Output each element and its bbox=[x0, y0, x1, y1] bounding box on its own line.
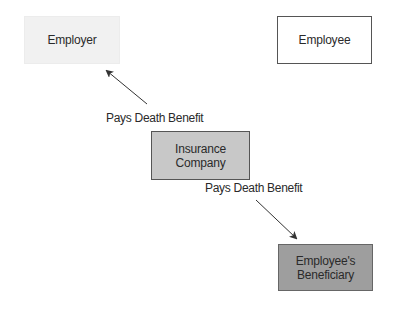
edge-label-to-employer: Pays Death Benefit bbox=[106, 111, 203, 125]
node-beneficiary-label-line2: Beneficiary bbox=[296, 268, 356, 282]
arrow-insurance-to-employer bbox=[107, 71, 147, 104]
node-employee-label: Employee bbox=[299, 33, 351, 47]
arrow-insurance-to-beneficiary bbox=[256, 200, 296, 238]
node-employees-beneficiary: Employee's Beneficiary bbox=[278, 244, 373, 291]
node-beneficiary-label-line1: Employee's bbox=[296, 254, 356, 268]
node-insurance-label-line2: Company bbox=[175, 156, 226, 170]
node-employee: Employee bbox=[277, 16, 372, 64]
node-insurance-label-line1: Insurance bbox=[175, 142, 226, 156]
node-employer: Employer bbox=[24, 16, 120, 64]
edge-label-to-beneficiary: Pays Death Benefit bbox=[205, 181, 302, 195]
node-insurance-company: Insurance Company bbox=[151, 131, 250, 180]
node-employer-label: Employer bbox=[47, 33, 96, 47]
